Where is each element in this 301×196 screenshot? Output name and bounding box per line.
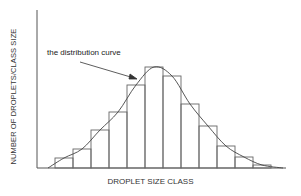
histogram-bar	[217, 146, 235, 168]
histogram-bar	[199, 126, 217, 168]
distribution-curve	[48, 67, 283, 168]
histogram-bar	[181, 104, 199, 168]
histogram-bar	[73, 149, 91, 168]
histogram-chart	[0, 0, 301, 196]
histogram-bar	[109, 112, 127, 168]
annotation-label: the distribution curve	[47, 48, 121, 57]
y-axis-label: NUMBER OF DROPLETS/CLASS SIZE	[9, 22, 18, 172]
histogram-bar	[145, 67, 163, 168]
histogram-bar	[127, 85, 145, 168]
x-axis-label: DROPLET SIZE CLASS	[0, 177, 301, 186]
histogram-bar	[163, 76, 181, 168]
annotation-arrow	[80, 62, 137, 79]
histogram-bar	[91, 130, 109, 168]
histogram-bar	[55, 158, 73, 168]
histogram-bar	[235, 157, 253, 168]
histogram-bars	[55, 67, 271, 168]
